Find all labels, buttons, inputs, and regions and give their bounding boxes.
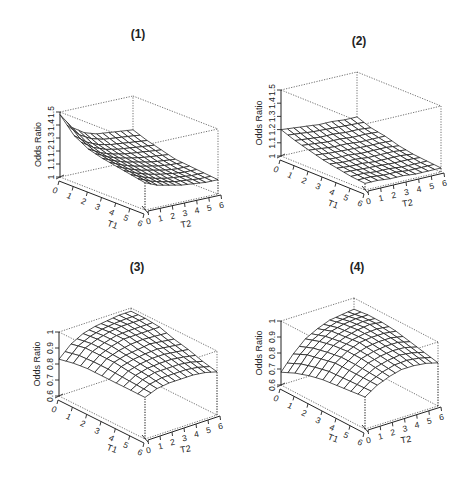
z-tick-label: 0.8 [267,347,277,359]
panel-title: (1) [131,27,146,41]
z-tick-label: 1.2 [46,145,56,157]
z-tick-label: 1 [46,174,56,179]
z-axis-label: Odds Ratio [32,341,42,386]
z-tick-label: 0.9 [267,331,277,343]
z-tick-label: 0.7 [267,363,277,375]
z-tick-label: 0.6 [267,379,277,391]
panel-title: (2) [352,34,367,48]
z-tick-label: 1 [267,153,277,158]
z-tick-label: 1 [45,329,55,334]
t2-axis-label: T2 [179,443,191,455]
t2-axis-label: T2 [180,218,192,230]
z-axis-label: Odds Ratio [33,122,43,167]
z-axis-label: Odds Ratio [254,330,264,375]
z-tick-label: 1.1 [46,158,56,170]
z-tick-label: 1.3 [46,132,56,144]
z-tick-label: 1.3 [267,110,277,122]
z-axis-label: Odds Ratio [254,100,264,145]
figure-background [0,0,469,480]
t2-axis-label: T2 [400,434,412,446]
z-tick-label: 0.6 [45,390,55,402]
panel-title: (4) [350,260,365,274]
z-tick-label: 1.4 [267,97,277,109]
z-tick-label: 0.7 [45,374,55,386]
z-tick-label: 1 [267,318,277,323]
z-tick-label: 0.9 [45,342,55,354]
z-tick-label: 0.8 [45,358,55,370]
z-tick-label: 1.1 [267,137,277,149]
panel-title: (3) [130,260,145,274]
z-tick-label: 1.2 [267,123,277,135]
t2-axis-label: T2 [401,197,413,209]
z-tick-label: 1.5 [46,106,56,118]
figure-canvas: (1) 11.11.21.31.41.5Odds Ratio0123456T10… [0,0,469,480]
z-tick-label: 1.4 [46,119,56,131]
z-tick-label: 1.5 [267,84,277,96]
